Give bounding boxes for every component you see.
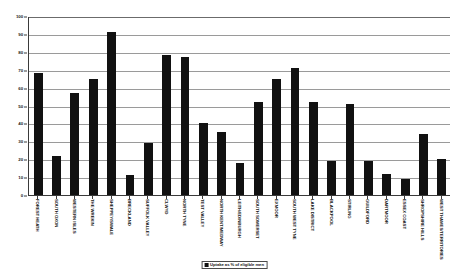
- y-tick-label-10: 10: [18, 176, 23, 180]
- y-tick-mark-40: [24, 124, 27, 125]
- bar: [126, 175, 135, 195]
- plot-area: [28, 17, 450, 196]
- bar: [382, 174, 391, 195]
- y-tick-label-20: 20: [18, 158, 23, 162]
- bar: [162, 55, 171, 195]
- y-tick-label-100: 100: [16, 15, 23, 19]
- bar: [144, 143, 153, 195]
- y-tick-mark-90: [24, 34, 27, 35]
- bar: [89, 79, 98, 195]
- x-tick-label: SHROPSHIRE HILLS: [420, 199, 424, 240]
- x-tick-label: NORTH KENT/MEDWAY: [218, 199, 222, 246]
- y-tick-mark-60: [24, 88, 27, 89]
- x-tick-label: SOUTH OXON: [53, 199, 57, 227]
- bars-layer: [29, 17, 450, 195]
- y-tick-mark-50: [24, 106, 27, 107]
- x-tick-label: WEST THAMES/TERRITORIES: [439, 199, 443, 260]
- y-tick-label-80: 80: [18, 51, 23, 55]
- bar: [419, 134, 428, 195]
- y-tick-label-50: 50: [18, 104, 23, 108]
- x-tick-label: BLACKPOOL: [329, 199, 333, 226]
- y-tick-label-60: 60: [18, 86, 23, 90]
- y-tick-label-90: 90: [18, 33, 23, 37]
- x-tick-label: LEITH/EDINBURGH: [237, 199, 241, 238]
- bar: [346, 104, 355, 195]
- bar: [34, 73, 43, 195]
- bar: [199, 123, 208, 195]
- x-tick-label: BRECKLAND: [127, 199, 131, 226]
- bar-chart-figure: 0102030405060708090100 FOREST HEATHSOUTH…: [0, 0, 469, 280]
- bar: [364, 161, 373, 195]
- bar: [254, 102, 263, 195]
- y-tick-label-30: 30: [18, 140, 23, 144]
- x-tick-label: STIRLING: [347, 199, 351, 219]
- x-tick-label: GUILDFORD: [365, 199, 369, 224]
- bar: [437, 159, 446, 195]
- bar: [70, 93, 79, 195]
- bar: [236, 163, 245, 195]
- y-axis: 0102030405060708090100: [0, 17, 27, 196]
- y-tick-mark-10: [24, 178, 27, 179]
- x-tick-label: THE WREKIN: [90, 199, 94, 226]
- x-tick-label: LAKE DISTRICT: [310, 199, 314, 231]
- x-tick-label: CLWYD: [163, 199, 167, 214]
- x-tick-label: FOREST HEATH: [35, 199, 39, 232]
- y-tick-mark-0: [24, 196, 27, 197]
- y-tick-mark-70: [24, 70, 27, 71]
- x-tick-label: SOUTH WEST TYNE: [292, 199, 296, 240]
- y-tick-mark-80: [24, 52, 27, 53]
- x-tick-label: EXMOOR: [274, 199, 278, 218]
- bar: [181, 57, 190, 195]
- x-tick-label: TEST VALLEY: [200, 199, 204, 227]
- x-tick-label: SUFFOLK VALLEY: [145, 199, 149, 236]
- bar: [291, 68, 300, 195]
- y-tick-label-0: 0: [21, 194, 23, 198]
- bar: [52, 156, 61, 195]
- x-axis-labels: FOREST HEATHSOUTH OXONWESTERN ISLESTHE W…: [28, 199, 450, 259]
- bar: [217, 132, 226, 195]
- y-tick-label-40: 40: [18, 122, 23, 126]
- bar: [309, 102, 318, 195]
- x-tick-label: DARTMOOR: [384, 199, 388, 224]
- y-tick-mark-100: [24, 17, 27, 18]
- x-tick-label: ESSEX COAST: [402, 199, 406, 229]
- bar: [327, 161, 336, 195]
- legend-label-uptake: Uptake as % of eligible men: [210, 263, 264, 267]
- x-tick-label: SHEPPEY/SWALE: [108, 199, 112, 235]
- x-label-slot: WEST THAMES/TERRITORIES: [441, 199, 469, 207]
- x-tick-label: NORTH TYNE: [182, 199, 186, 226]
- bar: [401, 179, 410, 195]
- x-tick-label: WESTERN ISLES: [72, 199, 76, 233]
- bar: [107, 32, 116, 195]
- y-tick-label-70: 70: [18, 68, 23, 72]
- y-tick-mark-20: [24, 160, 27, 161]
- bar: [272, 79, 281, 195]
- y-tick-mark-30: [24, 142, 27, 143]
- x-tick-label: SOUTH SOMERSET: [255, 199, 259, 239]
- chart-legend: Uptake as % of eligible men: [201, 261, 268, 269]
- legend-swatch-uptake: [204, 263, 208, 267]
